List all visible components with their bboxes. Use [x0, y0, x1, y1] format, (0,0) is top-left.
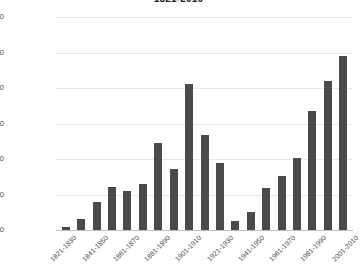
x-axis-tick-label: 1901-1910 — [174, 234, 203, 263]
bar-slot — [320, 17, 335, 230]
x-axis-tick-label: 1841-1850 — [80, 234, 109, 263]
bar-slot — [104, 17, 119, 230]
bar-slot — [181, 17, 196, 230]
bar-slot — [151, 17, 166, 230]
bar-slot — [336, 17, 351, 230]
gridline — [56, 230, 353, 231]
x-axis-tick-label: 1861-1870 — [112, 234, 141, 263]
bar-slot — [120, 17, 135, 230]
bar — [108, 187, 116, 230]
bar — [216, 163, 224, 230]
y-axis-tick-label: 2,000,000 — [0, 191, 4, 199]
y-axis-tick-label: 12,000,000 — [0, 13, 4, 21]
bar — [77, 219, 85, 230]
bar-slot — [274, 17, 289, 230]
bar-series — [56, 17, 353, 230]
bar-slot — [212, 17, 227, 230]
bar — [154, 143, 162, 230]
bar — [231, 221, 239, 230]
bar — [262, 188, 270, 230]
y-axis-tick-label: 0 — [0, 226, 4, 234]
bar-slot — [73, 17, 88, 230]
x-axis-tick-label: 1881-1890 — [143, 234, 172, 263]
y-axis-tick-label: 8,000,000 — [0, 84, 4, 92]
bar — [93, 202, 101, 230]
bar-slot — [228, 17, 243, 230]
plot-area — [56, 17, 353, 230]
bar — [339, 56, 347, 230]
bar — [139, 184, 147, 230]
x-axis-tick-label: 1961-1970 — [268, 234, 297, 263]
x-axis-tick-label: 1981-1990 — [299, 234, 328, 263]
bar-slot — [243, 17, 258, 230]
x-axis-tick-label: 2001-2010 — [330, 234, 359, 263]
bar — [185, 84, 193, 230]
bar-slot — [197, 17, 212, 230]
bar — [62, 227, 70, 230]
bar — [123, 191, 131, 230]
bar — [278, 176, 286, 230]
bar — [308, 111, 316, 230]
bar — [324, 81, 332, 230]
bar — [170, 169, 178, 230]
bar-slot — [289, 17, 304, 230]
bar-slot — [305, 17, 320, 230]
bar-slot — [89, 17, 104, 230]
y-axis-tick-label: 6,000,000 — [0, 120, 4, 128]
x-axis-tick-label: 1921-1930 — [205, 234, 234, 263]
x-axis: 1821-18301841-18501861-18701881-18901901… — [56, 232, 353, 278]
bar-slot — [258, 17, 273, 230]
bar — [201, 135, 209, 230]
x-axis-tick-label: 1821-1830 — [49, 234, 78, 263]
bar — [293, 158, 301, 230]
x-axis-tick-label: 1941-1950 — [237, 234, 266, 263]
chart-title: 1821-2010 — [0, 0, 357, 4]
y-axis-tick-label: 4,000,000 — [0, 155, 4, 163]
bar-slot — [58, 17, 73, 230]
y-axis-tick-label: 10,000,000 — [0, 49, 4, 57]
bar-slot — [135, 17, 150, 230]
bar — [247, 212, 255, 230]
bar-slot — [166, 17, 181, 230]
